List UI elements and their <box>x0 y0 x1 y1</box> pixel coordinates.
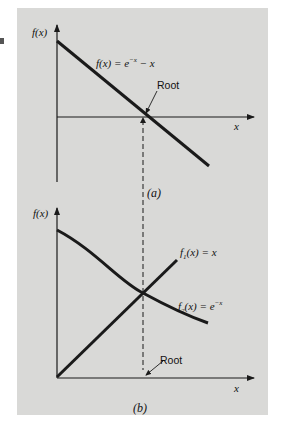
f2-label-rest: (x) = e <box>185 300 215 312</box>
panel-b-f2-label: f2(x) = e−x <box>178 300 222 315</box>
panel-a-axes <box>57 25 254 182</box>
panel-b-x-axis-label: x <box>234 383 239 394</box>
curve-label-exponent: −x <box>129 56 137 64</box>
panel-a-root-arrow <box>146 91 157 113</box>
panel-b-caption: (b) <box>133 402 147 414</box>
panel-a-caption: (a) <box>147 187 161 199</box>
panel-b-axes <box>57 208 254 378</box>
panel-a-x-axis-label: x <box>234 121 239 132</box>
panel-b-f1-label: f1(x) = x <box>180 247 217 261</box>
panel-b-root-label: Root <box>160 355 182 366</box>
panel-a-curve-label: f(x) = e−x − x <box>96 57 155 69</box>
panel-a-root-label: Root <box>157 80 179 91</box>
panel-b-y-axis-label: f(x) <box>33 208 48 219</box>
f1-label-rest: (x) = x <box>187 246 217 258</box>
curve-label-main: f(x) = e <box>96 57 129 69</box>
panel-b-curve-f1 <box>57 260 177 377</box>
panel-a-y-axis-label: f(x) <box>32 27 47 38</box>
curve-label-tail: − x <box>137 57 155 69</box>
f2-label-exponent: −x <box>215 299 223 307</box>
